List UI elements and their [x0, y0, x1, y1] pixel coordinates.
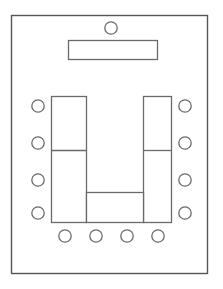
- seat-right-2[interactable]: [179, 137, 191, 149]
- presenter-seat[interactable]: [105, 22, 117, 34]
- head-table[interactable]: [69, 41, 158, 60]
- floor-plan-diagram: [0, 0, 223, 289]
- u-table-left-wing[interactable]: [52, 97, 87, 223]
- seat-bottom-4[interactable]: [152, 230, 164, 242]
- u-table-right-wing[interactable]: [144, 97, 172, 223]
- seat-bottom-1[interactable]: [59, 230, 71, 242]
- seat-right-4[interactable]: [179, 207, 191, 219]
- seat-left-2[interactable]: [32, 137, 44, 149]
- seat-left-4[interactable]: [32, 207, 44, 219]
- floor-plan-canvas: [0, 0, 223, 289]
- seat-left-1[interactable]: [32, 100, 44, 112]
- u-table-cross-bar[interactable]: [87, 193, 144, 223]
- seat-right-3[interactable]: [179, 174, 191, 186]
- seat-bottom-3[interactable]: [121, 230, 133, 242]
- seat-bottom-2[interactable]: [90, 230, 102, 242]
- seat-right-1[interactable]: [179, 100, 191, 112]
- seat-left-3[interactable]: [32, 174, 44, 186]
